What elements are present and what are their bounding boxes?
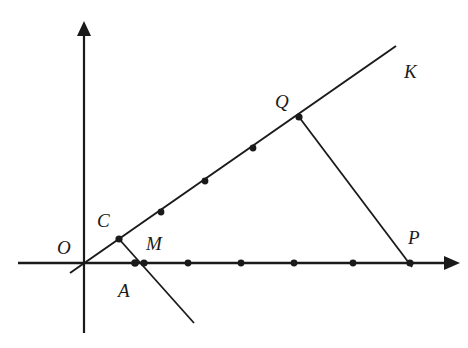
point-C bbox=[115, 235, 122, 242]
geometry-figure: O C M A Q K P bbox=[0, 0, 468, 348]
label-A: A bbox=[116, 280, 130, 301]
ray-points bbox=[115, 113, 302, 242]
label-M: M bbox=[145, 233, 163, 254]
label-O: O bbox=[57, 237, 71, 258]
point-M bbox=[140, 259, 147, 266]
point-ray-2 bbox=[158, 209, 165, 216]
point-ray-4 bbox=[250, 145, 257, 152]
point-axis-3 bbox=[185, 260, 192, 267]
label-K: K bbox=[403, 61, 418, 82]
label-P: P bbox=[407, 227, 420, 248]
x-axis-arrow-icon bbox=[444, 256, 460, 270]
point-axis-6 bbox=[350, 260, 357, 267]
y-axis-arrow-icon bbox=[77, 21, 91, 36]
point-P bbox=[406, 259, 413, 266]
point-A bbox=[131, 259, 139, 267]
point-Q bbox=[295, 113, 302, 120]
label-C: C bbox=[97, 210, 110, 231]
point-axis-5 bbox=[291, 260, 298, 267]
label-Q: Q bbox=[275, 91, 289, 112]
point-ray-3 bbox=[202, 178, 209, 185]
point-axis-4 bbox=[238, 260, 245, 267]
segment-Q-P bbox=[299, 117, 412, 267]
